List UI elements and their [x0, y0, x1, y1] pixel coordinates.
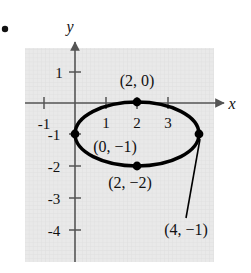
y-tick-label-neg3: -3: [48, 191, 61, 207]
vertex-right: [195, 130, 204, 139]
point-label-bottom: (2, −2): [108, 174, 152, 192]
x-tick-label-3: 3: [164, 115, 172, 131]
y-axis-label: y: [64, 18, 74, 36]
y-tick-label-neg1: -1: [48, 127, 61, 143]
bullet-marker: [2, 26, 8, 32]
vertex-top: [133, 98, 142, 107]
x-axis-label: x: [227, 95, 235, 112]
x-tick-label-1: 1: [102, 115, 110, 131]
x-tick-label-2: 2: [133, 115, 141, 131]
y-tick-label-neg2: -2: [48, 159, 61, 175]
ellipse-figure: x y -1 1 2 3 1 -1 -2 -3 -4 (2, 0) (0, −1…: [0, 0, 251, 273]
point-label-left: (0, −1): [93, 138, 137, 156]
vertex-left: [71, 130, 80, 139]
y-tick-label-1: 1: [55, 65, 63, 81]
point-label-top: (2, 0): [120, 72, 155, 90]
point-label-right: (4, −1): [164, 221, 208, 239]
y-tick-label-neg4: -4: [48, 223, 61, 239]
plot-canvas: x y -1 1 2 3 1 -1 -2 -3 -4 (2, 0) (0, −1…: [0, 0, 251, 273]
vertex-bottom: [133, 162, 142, 171]
